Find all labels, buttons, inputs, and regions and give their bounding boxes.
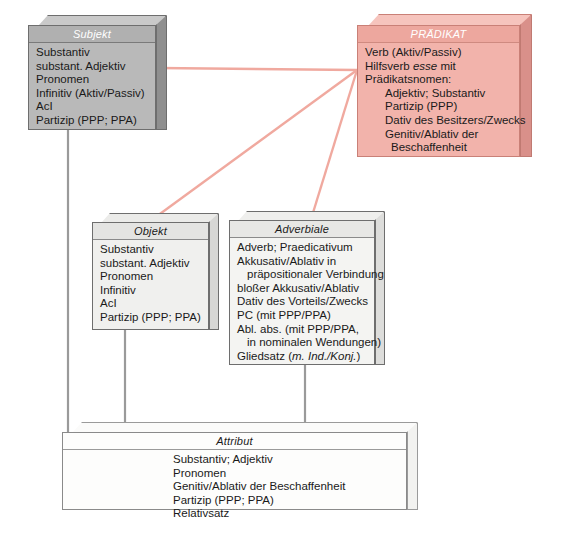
praedikat-line-2: Prädikatsnomen: [365, 73, 451, 85]
praedikat-line-6: Genitiv/Ablativ der [365, 128, 513, 142]
adverbiale-line-3: bloßer Akkusativ/Ablativ [237, 282, 359, 294]
diagram-canvas: Subjekt Substantiv substant. Adjektiv Pr… [0, 0, 568, 540]
praedikat-line-3: Adjektiv; Substantiv [365, 87, 513, 101]
praedikat-body: Verb (Aktiv/Passiv) Hilfsverb esse mit P… [358, 43, 519, 159]
adverbiale-line-0: Adverb; Praedicativum [237, 241, 353, 253]
objekt-side-panel [209, 213, 219, 330]
praedikat-line-7: Beschaffenheit [365, 141, 513, 155]
praedikat-side-panel [520, 14, 532, 157]
objekt-line-0: Substantiv [100, 243, 154, 255]
subjekt-line-2: Pronomen [36, 73, 89, 85]
objekt-face: Objekt Substantiv substant. Adjektiv Pro… [92, 222, 209, 330]
subjekt-side-panel [156, 15, 167, 130]
objekt-line-3: Infinitiv [100, 284, 136, 296]
adverbiale-line-1: Akkusativ/Ablativ in [237, 255, 336, 267]
subjekt-line-0: Substantiv [36, 46, 90, 58]
attribut-body: Substantiv; Adjektiv Pronomen Genitiv/Ab… [63, 450, 406, 525]
subjekt-line-1: substant. Adjektiv [36, 60, 126, 72]
objekt-line-2: Pronomen [100, 270, 153, 282]
adverbiale-body: Adverb; Praedicativum Akkusativ/Ablativ … [230, 238, 374, 367]
praedikat-line-4: Partizip (PPP) [365, 100, 513, 114]
adverbiale-line-4: Dativ des Vorteils/Zwecks [237, 295, 368, 307]
praedikat-face: PRÄDIKAT Verb (Aktiv/Passiv) Hilfsverb e… [357, 25, 520, 157]
node-attribut[interactable]: Attribut Substantiv; Adjektiv Pronomen G… [62, 432, 407, 510]
objekt-header: Objekt [93, 223, 208, 240]
praedikat-line-1: Hilfsverb esse mit [365, 60, 456, 72]
praedikat-header: PRÄDIKAT [358, 26, 519, 43]
node-objekt[interactable]: Objekt Substantiv substant. Adjektiv Pro… [92, 222, 209, 330]
connector-praedikat-to-subjekt [158, 68, 357, 70]
adverbiale-line-2: präpositionaler Verbindung [237, 268, 368, 282]
objekt-line-4: AcI [100, 297, 117, 309]
attribut-side-panel [407, 422, 418, 510]
subjekt-line-3: Infinitiv (Aktiv/Passiv) [36, 87, 145, 99]
attribut-line-0: Substantiv; Adjektiv [173, 453, 273, 465]
praedikat-line-5: Dativ des Besitzers/Zwecks [365, 114, 513, 128]
node-adverbiale[interactable]: Adverbiale Adverb; Praedicativum Akkusat… [229, 220, 375, 365]
praedikat-line-0: Verb (Aktiv/Passiv) [365, 46, 462, 58]
attribut-line-3: Partizip (PPP; PPA) [173, 494, 274, 506]
attribut-line-4: Relativsatz [173, 507, 229, 519]
attribut-line-1: Pronomen [173, 467, 226, 479]
attribut-header: Attribut [63, 433, 406, 450]
subjekt-face: Subjekt Substantiv substant. Adjektiv Pr… [28, 25, 156, 130]
adverbiale-face: Adverbiale Adverb; Praedicativum Akkusat… [229, 220, 375, 365]
attribut-line-2: Genitiv/Ablativ der Beschaffenheit [173, 480, 345, 492]
node-subjekt[interactable]: Subjekt Substantiv substant. Adjektiv Pr… [28, 25, 156, 130]
objekt-line-1: substant. Adjektiv [100, 257, 190, 269]
subjekt-line-5: Partizip (PPP; PPA) [36, 114, 137, 126]
adverbiale-line-7: in nominalen Wendungen) [237, 336, 368, 350]
subjekt-body: Substantiv substant. Adjektiv Pronomen I… [29, 43, 155, 132]
adverbiale-header: Adverbiale [230, 221, 374, 238]
adverbiale-line-8: Gliedsatz (m. Ind./Konj.) [237, 350, 360, 362]
objekt-line-5: Partizip (PPP; PPA) [100, 311, 201, 323]
subjekt-line-4: AcI [36, 100, 53, 112]
connector-praedikat-to-adverbiale [312, 70, 357, 216]
node-praedikat[interactable]: PRÄDIKAT Verb (Aktiv/Passiv) Hilfsverb e… [357, 25, 520, 157]
subjekt-header: Subjekt [29, 26, 155, 43]
attribut-face: Attribut Substantiv; Adjektiv Pronomen G… [62, 432, 407, 510]
adverbiale-line-5: PC (mit PPP/PPA) [237, 309, 331, 321]
objekt-body: Substantiv substant. Adjektiv Pronomen I… [93, 240, 208, 329]
adverbiale-line-6: Abl. abs. (mit PPP/PPA, [237, 323, 359, 335]
connector-praedikat-to-objekt [153, 70, 357, 219]
